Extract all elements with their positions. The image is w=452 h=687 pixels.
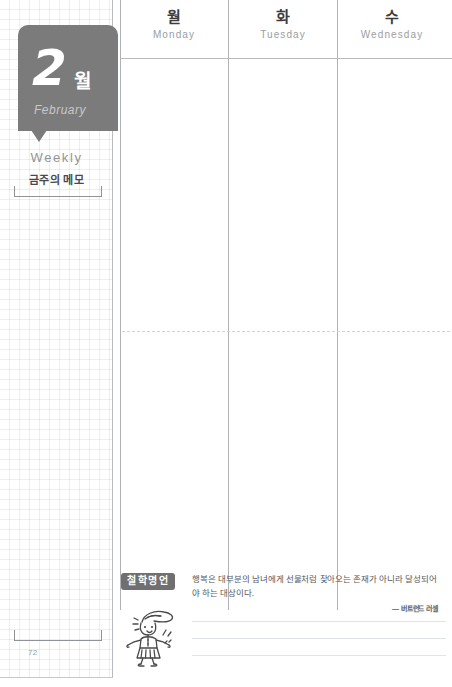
planner-page: 2 월 February Weekly 금주의 메모 72 월 Monday 화… (0, 0, 452, 687)
memo-bracket (14, 184, 102, 197)
column-divider-left (120, 0, 121, 610)
footer-bracket (14, 628, 102, 641)
day-label-en-monday: Monday (120, 27, 228, 43)
day-label-kr-monday: 월 (120, 8, 228, 26)
girl-doodle-icon (122, 606, 186, 668)
page-number: 72 (28, 648, 38, 657)
month-unit-label: 월 (74, 72, 91, 91)
weekly-memo-title-en: Weekly (0, 150, 113, 165)
month-tab: 2 월 February (18, 25, 118, 131)
memo-bracket-bar (14, 196, 102, 197)
writing-line[interactable] (192, 621, 446, 622)
writing-line[interactable] (192, 655, 446, 656)
day-label-en-wednesday: Wednesday (338, 27, 446, 43)
day-header-wednesday[interactable]: 수 Wednesday (338, 8, 446, 43)
midday-dashed-divider (122, 331, 450, 332)
day-label-kr-tuesday: 화 (229, 8, 337, 26)
day-header-tuesday[interactable]: 화 Tuesday (229, 8, 337, 43)
day-header-monday[interactable]: 월 Monday (120, 8, 228, 43)
month-number: 2 (32, 43, 65, 93)
grid-panel-bottom-edge (0, 677, 113, 678)
column-divider-mid (228, 0, 229, 610)
month-name-english: February (34, 103, 86, 117)
quote-badge: 철학명언 (121, 573, 175, 590)
quote-text: 행복은 대부분의 남녀에게 선물처럼 찾아오는 존재가 아니라 달성되어야 하는… (192, 572, 438, 600)
writing-line[interactable] (192, 638, 446, 639)
column-divider-right (337, 0, 338, 610)
footer-bracket-bar (14, 640, 102, 641)
day-label-en-tuesday: Tuesday (229, 27, 337, 43)
memo-bracket-tick-right (101, 186, 102, 197)
header-rule (120, 58, 452, 59)
footer-bracket-tick-right (101, 630, 102, 641)
quote-author: — 버트런드 러셀 (192, 603, 438, 613)
month-tab-pointer (31, 130, 47, 142)
day-label-kr-wednesday: 수 (338, 8, 446, 26)
